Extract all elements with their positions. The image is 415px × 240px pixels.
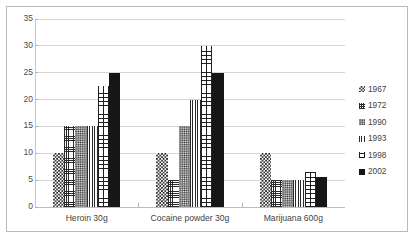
legend-item-label: 2002 xyxy=(368,167,386,176)
legend-item[interactable]: 1990 xyxy=(359,114,407,131)
legend-item-label: 1967 xyxy=(368,85,386,94)
legend-item[interactable]: 2002 xyxy=(359,164,407,181)
y-axis-tick-label: 20 xyxy=(9,95,33,104)
y-axis-tick-label: 0 xyxy=(9,202,33,211)
legend-swatch-icon xyxy=(359,152,365,158)
x-axis-category-labels: Heroin 30gCocaine powder 30gMarijuana 60… xyxy=(35,213,345,229)
x-axis-category-label: Marijuana 600g xyxy=(242,213,345,224)
chart-legend: 196719721990199319982002 xyxy=(359,81,407,180)
chart-frame: 05101520253035 Heroin 30gCocaine powder … xyxy=(6,6,408,232)
legend-item-label: 1993 xyxy=(368,134,386,143)
x-axis-category-label: Cocaine powder 30g xyxy=(138,213,241,224)
legend-item-label: 1990 xyxy=(368,118,386,127)
bar[interactable] xyxy=(190,100,201,207)
legend-swatch-icon xyxy=(359,169,365,175)
legend-swatch-icon xyxy=(359,103,365,109)
legend-item[interactable]: 1967 xyxy=(359,81,407,98)
y-axis-tick-label: 25 xyxy=(9,68,33,77)
bar[interactable] xyxy=(64,126,75,207)
bar[interactable] xyxy=(212,73,223,207)
legend-item[interactable]: 1998 xyxy=(359,147,407,164)
legend-item-label: 1972 xyxy=(368,101,386,110)
bar[interactable] xyxy=(179,126,190,207)
legend-swatch-icon xyxy=(359,136,365,142)
bar[interactable] xyxy=(305,172,316,207)
y-axis: 05101520253035 xyxy=(7,19,33,207)
plot-area xyxy=(35,19,345,207)
x-axis-tick-mark xyxy=(242,203,243,207)
bar[interactable] xyxy=(282,180,293,207)
bar[interactable] xyxy=(156,153,167,207)
bar[interactable] xyxy=(260,153,271,207)
legend-swatch-icon xyxy=(359,119,365,125)
bar-group xyxy=(138,19,241,207)
y-axis-tick-label: 5 xyxy=(9,175,33,184)
y-axis-tick-label: 35 xyxy=(9,14,33,23)
legend-item-label: 1998 xyxy=(368,151,386,160)
y-axis-tick-label: 15 xyxy=(9,121,33,130)
legend-item[interactable]: 1972 xyxy=(359,98,407,115)
bar[interactable] xyxy=(168,180,179,207)
bar[interactable] xyxy=(98,86,109,207)
bar[interactable] xyxy=(109,73,120,207)
bar[interactable] xyxy=(75,126,86,207)
bar[interactable] xyxy=(87,126,98,207)
bar[interactable] xyxy=(293,180,304,207)
legend-swatch-icon xyxy=(359,86,365,92)
bar[interactable] xyxy=(201,46,212,207)
bar-group xyxy=(35,19,138,207)
bar-group xyxy=(242,19,345,207)
bar[interactable] xyxy=(316,177,327,207)
bar[interactable] xyxy=(53,153,64,207)
bar[interactable] xyxy=(271,180,282,207)
y-axis-tick-label: 30 xyxy=(9,41,33,50)
x-axis-tick-mark xyxy=(138,203,139,207)
legend-item[interactable]: 1993 xyxy=(359,131,407,148)
y-axis-tick-label: 10 xyxy=(9,148,33,157)
x-axis-category-label: Heroin 30g xyxy=(35,213,138,224)
